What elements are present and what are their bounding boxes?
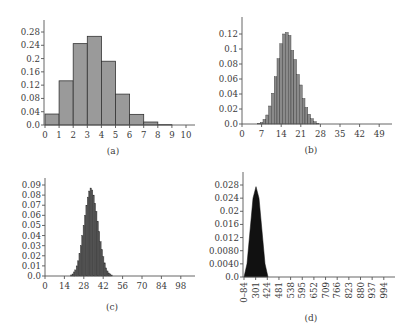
x-tick-label: 8 [155,130,160,140]
histogram-bar [294,60,297,125]
y-tick-label: 0.2 [26,54,40,64]
histogram-bar [263,120,266,125]
y-tick-label: 0.0 [26,120,40,130]
y-tick-label: 0.24 [21,40,41,50]
y-tick-label: 0.02 [219,104,238,114]
histogram-bar [91,190,92,276]
histogram-bar [101,250,102,276]
x-tick-label: 0–84 [239,281,249,302]
panel-d-chart: 0.00.00400.00800.0120.0160.020.0240.0280… [209,172,395,303]
histogram-bar [308,114,311,124]
y-tick-label: 0.07 [22,200,41,210]
histogram-bar [285,33,288,125]
x-tick-label: 481 [274,282,284,298]
histogram-bar [302,99,305,125]
y-tick-label: 0.12 [21,80,40,90]
histogram-bar [274,77,277,124]
x-tick-label: 652 [309,282,319,298]
histogram-bar [269,106,272,124]
histogram-bar [288,36,291,125]
histogram-bar [297,75,300,125]
x-tick-label: 28 [315,129,326,139]
histogram-bar [280,44,283,124]
histogram-bar [108,273,109,276]
histogram-bar [107,271,108,276]
x-tick-label: 42 [354,129,365,139]
histogram-bar [277,59,280,124]
histogram-bar [101,61,115,125]
y-tick-label: 0.0040 [209,259,239,269]
x-tick-label: 9 [169,130,174,140]
x-tick-label: 42 [98,281,109,291]
histogram-bar [75,270,76,276]
panel-a-chart: 0.00.040.080.120.160.20.240.280123456789… [21,20,195,140]
x-tick-label: 98 [175,281,186,291]
x-tick-label: 21 [295,129,306,139]
histogram-bar [84,215,85,276]
x-tick-label: 7 [141,130,146,140]
x-tick-label: 301 [251,282,261,298]
x-tick-label: 595 [297,282,307,298]
y-tick-label: 0.02 [22,251,41,261]
y-tick-label: 0.016 [214,219,239,229]
histogram-bar [73,44,87,125]
y-tick-label: 0.012 [214,233,239,243]
y-tick-label: 0.08 [21,93,40,103]
histogram-bar [116,94,130,125]
y-tick-label: 0.01 [22,261,41,271]
x-tick-label: 35 [335,129,346,139]
y-tick-label: 0.0 [225,272,239,282]
y-tick-label: 0.04 [22,231,42,241]
distribution-area [244,187,268,277]
x-tick-label: 28 [78,281,89,291]
x-tick-label: 766 [332,282,342,298]
histogram-bar [89,191,90,276]
x-tick-label: 1 [56,130,61,140]
histogram-bar [299,85,302,124]
x-tick-label: 4 [99,130,105,140]
histogram-bar [45,114,59,125]
x-tick-label: 49 [374,129,385,139]
x-tick-label: 0 [42,281,47,291]
panel-a-label: (a) [107,146,119,156]
y-tick-label: 0.028 [214,180,239,190]
y-tick-label: 0.0080 [209,246,239,256]
x-tick-label: 937 [367,282,377,298]
x-tick-label: 0 [42,130,47,140]
panel-b-chart: 0.00.020.040.060.080.10.1207142128354249 [219,17,392,139]
y-tick-label: 0.09 [22,180,41,190]
histogram-bar [283,34,286,124]
histogram-bar [79,254,80,276]
histogram-bar [97,221,98,276]
y-tick-label: 0.04 [21,107,41,117]
x-tick-label: 5 [113,130,118,140]
y-tick-label: 0.03 [22,241,41,251]
x-tick-label: 424 [262,281,272,298]
x-tick-label: 84 [156,281,167,291]
panel-b-label: (b) [305,145,318,155]
y-tick-label: 0.024 [214,193,239,203]
y-tick-label: 0.08 [22,190,41,200]
histogram-bar [104,263,105,276]
histogram-bar [305,108,308,125]
histogram-bar [78,261,79,276]
y-tick-label: 0.04 [219,89,239,99]
histogram-bar [98,232,99,276]
y-tick-label: 0.28 [21,27,40,37]
y-tick-label: 0.02 [220,206,239,216]
y-tick-label: 0.0 [27,271,41,281]
histogram-bar [94,203,95,276]
x-tick-label: 0 [239,129,244,139]
histogram-bar [291,51,294,125]
histogram-bar [87,197,88,276]
x-tick-label: 10 [181,130,192,140]
panel-d-label: (d) [305,313,318,323]
histogram-bar [82,236,83,276]
x-tick-label: 709 [321,282,331,298]
y-tick-label: 0.1 [224,44,238,54]
x-tick-label: 14 [59,281,70,291]
panel-c-label: (c) [106,302,118,312]
x-tick-label: 994 [379,281,389,298]
x-tick-label: 880 [356,282,366,298]
x-tick-label: 14 [276,129,287,139]
